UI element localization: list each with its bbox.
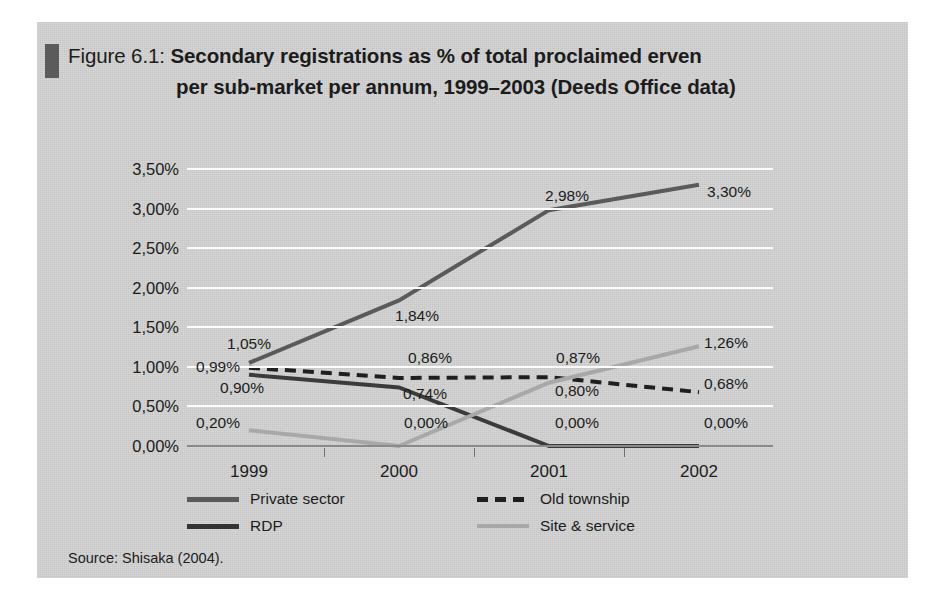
- legend-swatch-icon: [187, 524, 239, 529]
- legend-swatch-icon: [477, 524, 529, 528]
- y-axis-tick-label: 0,50%: [132, 397, 179, 416]
- gridline: [187, 287, 773, 289]
- y-axis-labels: 0,00%0,50%1,00%1,50%2,00%2,50%3,00%3,50%: [107, 169, 179, 446]
- legend-item[interactable]: Old township: [477, 490, 630, 508]
- legend-label: Old township: [540, 490, 630, 508]
- gridline: [187, 405, 773, 407]
- x-axis-tick: [474, 448, 475, 457]
- x-axis-ticks: [187, 448, 773, 458]
- data-label: 1,84%: [395, 307, 439, 325]
- data-label: 0,68%: [704, 375, 748, 393]
- data-label: 0,90%: [220, 379, 264, 397]
- x-axis-labels: 1999200020012002: [187, 462, 773, 486]
- x-axis-tick-label: 2002: [680, 462, 718, 482]
- data-label: 0,74%: [403, 385, 447, 403]
- x-axis-tick: [324, 448, 325, 457]
- gridline: [187, 366, 773, 368]
- gridline: [187, 247, 773, 249]
- legend-swatch-icon: [187, 497, 239, 502]
- data-label: 0,00%: [555, 414, 599, 432]
- data-label: 0,87%: [556, 349, 600, 367]
- y-axis-tick-label: 0,00%: [132, 437, 179, 456]
- legend-item[interactable]: Private sector: [187, 490, 345, 508]
- data-label: 0,80%: [555, 382, 599, 400]
- x-axis-tick-label: 1999: [230, 462, 268, 482]
- source-note: Source: Shisaka (2004).: [68, 550, 224, 566]
- y-axis-tick-label: 2,00%: [132, 278, 179, 297]
- legend-item[interactable]: RDP: [187, 517, 283, 535]
- figure-panel: Figure 6.1: Secondary registrations as %…: [37, 22, 908, 578]
- legend-item[interactable]: Site & service: [477, 517, 635, 535]
- y-axis-tick-label: 2,50%: [132, 239, 179, 258]
- y-axis-tick-label: 1,50%: [132, 318, 179, 337]
- data-label: 1,05%: [227, 335, 271, 353]
- legend-label: RDP: [250, 517, 283, 535]
- data-label: 0,20%: [196, 414, 240, 432]
- legend-label: Private sector: [250, 490, 345, 508]
- x-axis-tick-label: 2001: [530, 462, 568, 482]
- chart-legend: Private sectorRDPOld townshipSite & serv…: [187, 490, 787, 546]
- x-axis-tick: [624, 448, 625, 457]
- y-axis-tick-label: 3,00%: [132, 199, 179, 218]
- series-line-site-service: [249, 346, 699, 446]
- gridline: [187, 326, 773, 328]
- gridline: [187, 208, 773, 210]
- data-label: 0,86%: [408, 349, 452, 367]
- y-axis-tick-label: 1,00%: [132, 357, 179, 376]
- legend-label: Site & service: [540, 517, 635, 535]
- legend-swatch-icon: [477, 497, 529, 502]
- data-label: 0,99%: [196, 358, 240, 376]
- plot-area: [187, 169, 773, 446]
- data-label: 3,30%: [707, 183, 751, 201]
- data-label: 2,98%: [545, 187, 589, 205]
- x-axis-line: [187, 445, 773, 447]
- data-label: 0,00%: [704, 414, 748, 432]
- y-axis-tick-label: 3,50%: [132, 160, 179, 179]
- data-label: 0,00%: [404, 414, 448, 432]
- series-line-private-sector: [249, 185, 699, 363]
- x-axis-tick-label: 2000: [380, 462, 418, 482]
- data-label: 1,26%: [704, 334, 748, 352]
- gridline: [187, 168, 773, 170]
